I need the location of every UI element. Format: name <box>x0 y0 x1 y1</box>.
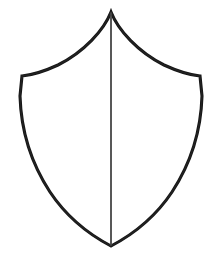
drawing-canvas <box>0 0 221 263</box>
shield-drawing <box>0 0 221 263</box>
